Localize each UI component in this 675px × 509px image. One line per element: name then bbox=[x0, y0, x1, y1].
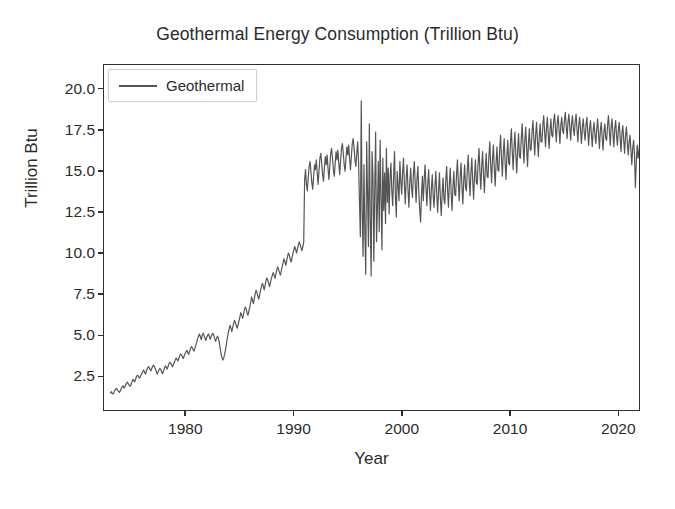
x-tick-mark bbox=[293, 411, 295, 416]
x-tick-mark bbox=[184, 411, 186, 416]
data-series-geothermal bbox=[104, 65, 639, 410]
y-tick-label: 7.5 bbox=[37, 285, 95, 303]
plot-area bbox=[103, 64, 640, 411]
chart-figure: Geothermal Energy Consumption (Trillion … bbox=[0, 0, 675, 509]
x-tick-mark bbox=[509, 411, 511, 416]
chart-legend: Geothermal bbox=[108, 69, 257, 102]
legend-label-geothermal: Geothermal bbox=[166, 77, 244, 94]
x-axis-label: Year bbox=[103, 449, 640, 469]
x-tick-label: 1990 bbox=[259, 420, 329, 438]
x-tick-mark bbox=[401, 411, 403, 416]
y-tick-label: 17.5 bbox=[37, 121, 95, 139]
legend-line-swatch bbox=[119, 85, 157, 87]
x-tick-label: 2020 bbox=[583, 420, 653, 438]
chart-title: Geothermal Energy Consumption (Trillion … bbox=[0, 24, 675, 45]
x-tick-label: 2010 bbox=[475, 420, 545, 438]
x-tick-label: 1980 bbox=[150, 420, 220, 438]
y-tick-label: 20.0 bbox=[37, 80, 95, 98]
y-tick-label: 2.5 bbox=[37, 367, 95, 385]
y-tick-label: 12.5 bbox=[37, 203, 95, 221]
y-tick-label: 10.0 bbox=[37, 244, 95, 262]
x-tick-label: 2000 bbox=[367, 420, 437, 438]
y-tick-label: 5.0 bbox=[37, 326, 95, 344]
y-tick-label: 15.0 bbox=[37, 162, 95, 180]
x-tick-mark bbox=[618, 411, 620, 416]
geothermal-line bbox=[110, 101, 639, 394]
